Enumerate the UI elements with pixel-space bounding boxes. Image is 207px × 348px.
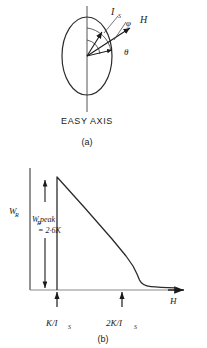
is-label-subscript: S bbox=[118, 13, 121, 19]
xtick-label-2k-over-is: 2K/I bbox=[106, 318, 123, 328]
y-axis-label-subscript: R bbox=[14, 212, 19, 218]
wr-peak-annotation-word: peak bbox=[39, 215, 56, 224]
x-axis-label: H bbox=[169, 296, 177, 306]
wr-peak-annotation-value: = 2·6K bbox=[38, 226, 61, 235]
figure-container: I S φ H θ EASY AXIS (a) bbox=[0, 0, 207, 348]
is-label: I bbox=[110, 6, 115, 17]
xtick-label-k-over-is-subscript: S bbox=[68, 324, 71, 330]
phi-label: φ bbox=[126, 18, 131, 28]
h-label: H bbox=[139, 14, 148, 25]
panel-b-chart: W R W R peak = 2·6K K/I S 2K/I S H (b) bbox=[0, 150, 207, 348]
panel-a-diagram: I S φ H θ EASY AXIS (a) bbox=[0, 0, 207, 150]
wr-vs-h-curve bbox=[57, 177, 176, 290]
easy-axis-caption: EASY AXIS bbox=[61, 116, 113, 126]
is-label-leader bbox=[104, 16, 118, 33]
panel-b-caption: (b) bbox=[98, 334, 109, 344]
xtick-label-k-over-is: K/I bbox=[45, 318, 59, 328]
panel-a-caption: (a) bbox=[82, 137, 93, 147]
xtick-label-2k-over-is-subscript: S bbox=[134, 324, 137, 330]
phi-label-leader bbox=[114, 22, 126, 40]
theta-label: θ bbox=[124, 47, 129, 57]
